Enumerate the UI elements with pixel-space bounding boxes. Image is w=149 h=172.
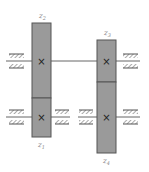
label-z1: z1 xyxy=(37,141,45,150)
label-z2: z2 xyxy=(38,12,46,21)
axle-marker-z2: × xyxy=(37,56,45,67)
axle-marker-z3: × xyxy=(102,56,110,67)
axle-marker-z1: × xyxy=(37,112,45,123)
gear-train-diagram: × × × × z2 z3 z1 z4 xyxy=(0,0,149,172)
label-z3: z3 xyxy=(103,29,111,38)
label-z4: z4 xyxy=(102,157,110,166)
axle-marker-z4: × xyxy=(102,112,110,123)
